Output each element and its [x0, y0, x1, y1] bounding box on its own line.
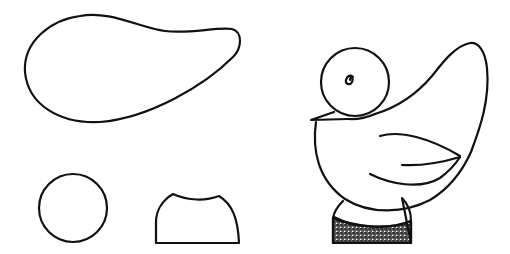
wing-middle: [402, 157, 460, 165]
head: [321, 48, 389, 116]
head-piece: [39, 174, 107, 242]
figure-canvas: [0, 0, 510, 254]
wing-upper: [380, 134, 460, 156]
base-piece: [156, 194, 239, 243]
assembled-bird: [311, 43, 488, 243]
body-wing-piece: [25, 15, 240, 122]
body-tail: [315, 43, 488, 210]
eye: [346, 76, 353, 85]
